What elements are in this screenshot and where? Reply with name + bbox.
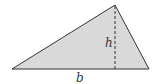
triangle-diagram: h b [0,0,156,84]
triangle-shape [12,5,149,69]
height-label: h [105,36,113,50]
base-label: b [76,71,84,84]
